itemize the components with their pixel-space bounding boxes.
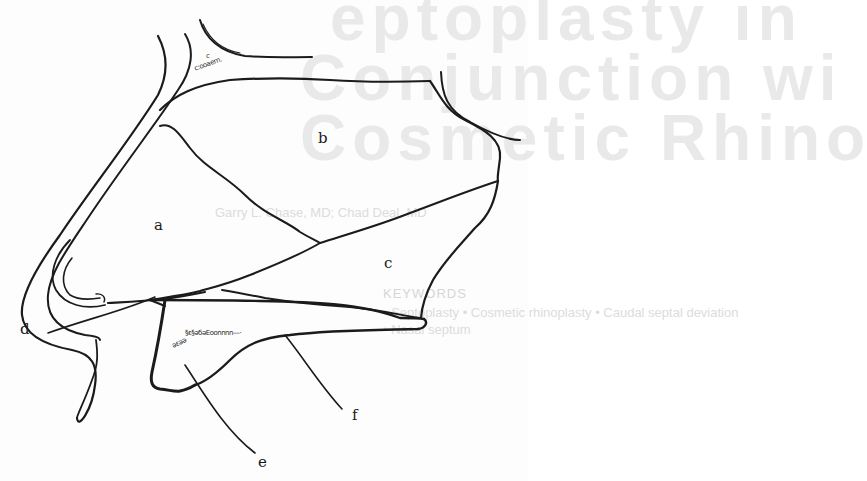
label-d: d <box>20 322 30 337</box>
vomer-right-border <box>421 181 498 318</box>
label-b: b <box>318 131 328 146</box>
pointer-line-d <box>48 297 155 333</box>
nasal-bone-upper <box>200 20 312 57</box>
pointer-line-f <box>285 335 342 409</box>
label-a: a <box>154 218 163 233</box>
label-f: f <box>352 408 358 423</box>
boundary-a-b <box>160 125 320 243</box>
columella-curve-outer <box>53 240 105 307</box>
skin-outer-contour <box>22 36 166 422</box>
maxillary-crest-top <box>150 300 424 319</box>
perpendicular-plate-top <box>160 79 430 111</box>
maxillary-crest-marrow-upper: §ε§əбəЕoonnnn—· <box>185 330 241 337</box>
columella-curve-inner <box>63 258 100 299</box>
label-e: e <box>258 455 267 470</box>
pointer-line-e <box>185 365 255 453</box>
label-c: c <box>384 256 392 271</box>
